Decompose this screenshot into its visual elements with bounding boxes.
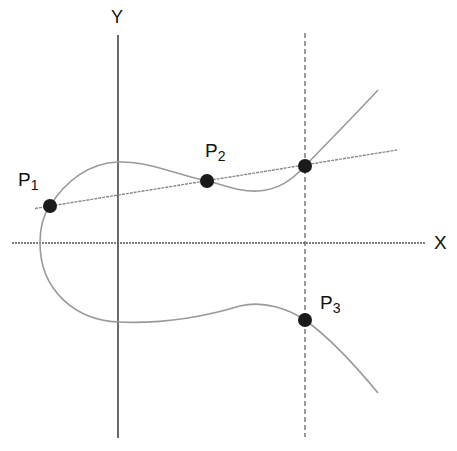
point-p2 [200,174,214,188]
label-p2: P2 [205,141,225,163]
label-p3: P3 [320,293,340,315]
elliptic-curve-diagram: Y X P1 P2 P3 [0,0,457,451]
label-p2-sub: 2 [218,148,226,164]
point-p1 [43,199,57,213]
curve-lower-branch [40,243,378,393]
label-p3-sub: 3 [333,300,341,316]
point-intersection [298,159,312,173]
label-p2-name: P [205,140,218,161]
diagram-canvas [0,0,457,451]
label-p1-name: P [18,169,31,190]
label-p1-sub: 1 [31,177,39,193]
label-p1: P1 [18,170,38,192]
label-p3-name: P [320,292,333,313]
x-axis-label: X [434,233,447,252]
y-axis-label: Y [111,8,123,26]
point-p3 [298,313,312,327]
curve-upper-branch [40,90,378,243]
